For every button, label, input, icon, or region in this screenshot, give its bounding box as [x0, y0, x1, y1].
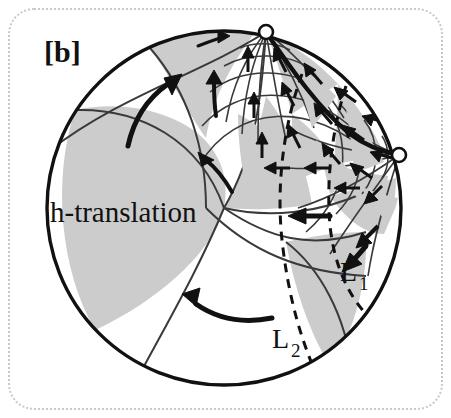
- ideal-point-right-icon: [392, 148, 406, 162]
- h-translation-label: h-translation: [50, 196, 197, 228]
- hyperbolic-disk-diagram: [b] h-translation L 1 L 2: [0, 0, 451, 418]
- panel-label: [b]: [44, 35, 81, 68]
- geodesic-label-L1-subscript: 1: [359, 273, 369, 294]
- geodesic-label-L2-subscript: 2: [291, 340, 301, 361]
- geodesic-label-L1-base: L: [340, 256, 357, 287]
- figure-root: [b] h-translation L 1 L 2: [0, 0, 451, 418]
- geodesic-label-L2-base: L: [272, 323, 289, 354]
- ideal-point-top-icon: [259, 25, 273, 39]
